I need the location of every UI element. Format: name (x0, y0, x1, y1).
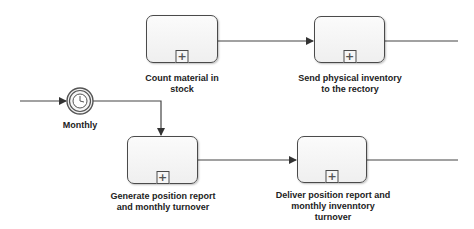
subprocess-expand-icon[interactable]: + (343, 50, 356, 63)
task-generate-position-report-label: Generate position report and monthly tur… (92, 191, 234, 213)
task-count-material-label: Count material in stock (122, 73, 242, 95)
timer-event[interactable] (67, 88, 93, 114)
task-generate-position-report[interactable]: + (127, 136, 198, 184)
clock-icon (73, 94, 87, 108)
task-deliver-position-report[interactable]: + (297, 136, 367, 183)
timer-event-label: Monthly (55, 120, 105, 131)
subprocess-expand-icon[interactable]: + (326, 170, 339, 183)
subprocess-expand-icon[interactable]: + (176, 50, 189, 63)
task-send-physical-inventory[interactable]: + (314, 16, 385, 63)
task-send-physical-inventory-label: Send physical inventory to the rectory (284, 73, 416, 95)
task-deliver-position-report-label: Deliver position report and monthly inve… (262, 190, 404, 223)
task-count-material[interactable]: + (146, 15, 218, 63)
subprocess-expand-icon[interactable]: + (156, 171, 169, 184)
